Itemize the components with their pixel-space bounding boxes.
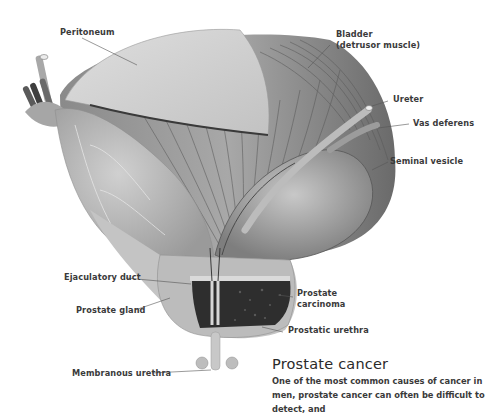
label-bladder-line2: (detrusor muscle) xyxy=(336,40,420,51)
article-heading: Prostate cancer xyxy=(272,356,388,372)
label-seminal-vesicle: Seminal vesicle xyxy=(390,156,463,167)
label-membranous-urethra: Membranous urethra xyxy=(72,368,171,379)
label-ureter: Ureter xyxy=(393,94,423,105)
label-peritoneum: Peritoneum xyxy=(60,27,115,38)
label-prostate-carcinoma-line1: Prostate xyxy=(297,288,346,299)
article-body: One of the most common causes of cancer … xyxy=(272,374,487,416)
label-prostate-carcinoma-line2: carcinoma xyxy=(297,299,346,310)
label-prostatic-urethra: Prostatic urethra xyxy=(288,325,369,336)
label-prostate-gland: Prostate gland xyxy=(76,305,146,316)
label-prostate-carcinoma: Prostate carcinoma xyxy=(297,288,346,310)
label-bladder: Bladder (detrusor muscle) xyxy=(336,29,420,51)
label-vas-deferens: Vas deferens xyxy=(413,118,474,129)
label-ejaculatory-duct: Ejaculatory duct xyxy=(64,272,141,283)
label-bladder-line1: Bladder xyxy=(336,29,420,40)
